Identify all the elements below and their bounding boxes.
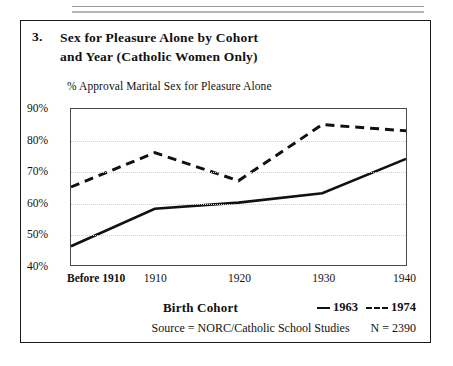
x-axis-tick-label: 1910 [144,272,167,284]
legend-label-1963: 1963 [333,300,358,315]
gridline [71,172,406,173]
legend: 1963 1974 [317,300,416,315]
x-axis-tick-label: 1920 [228,272,251,284]
source-row: Source = NORC/Catholic School Studies N … [21,321,416,336]
solid-line-swatch-icon [317,307,330,309]
y-axis-tick-label: 80% [27,135,67,147]
rule-line-lower [72,11,424,13]
y-axis-tick-label: 70% [27,166,67,178]
legend-entry-1974: 1974 [366,300,416,315]
figure-box: 3. Sex for Pleasure Alone by Cohort and … [20,20,431,343]
x-axis-title: Birth Cohort [163,300,238,316]
top-double-rule [72,6,424,16]
source-text: Source = NORC/Catholic School Studies [151,321,349,335]
gridline [71,204,406,205]
y-axis-tick-label: 50% [27,229,67,241]
x-axis-tick-label: 1940 [393,272,416,284]
series-line-1974 [71,125,406,187]
y-axis-tick-label: 60% [27,198,67,210]
dashed-line-swatch-icon [366,307,388,309]
legend-entry-1963: 1963 [317,300,358,315]
plot-frame: 40%50%60%70%80%90%Before 191019101920193… [70,108,407,266]
y-axis-tick-label: 40% [27,261,67,273]
gridline [71,141,406,142]
x-axis-tick-label: Before 1910 [67,272,125,284]
plot-area: 40%50%60%70%80%90%Before 191019101920193… [21,21,432,344]
series-lines [71,109,406,265]
y-axis-tick-label: 90% [27,103,67,115]
figure-page: 3. Sex for Pleasure Alone by Cohort and … [0,0,453,366]
gridline [71,235,406,236]
legend-label-1974: 1974 [391,300,416,315]
sample-size: N = 2390 [371,321,416,335]
x-axis-tick-label: 1930 [312,272,335,284]
rule-line-upper [72,6,424,7]
